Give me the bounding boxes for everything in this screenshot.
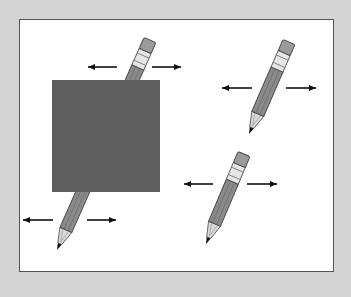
bottom-right-pencil — [200, 151, 250, 246]
top-right-arrows-left-arrow-icon — [222, 85, 252, 91]
pencil-body — [209, 179, 239, 226]
top-right-arrows-right-arrow-icon — [286, 85, 316, 91]
occluded-top-arrows-right-arrow-icon — [152, 64, 181, 70]
pencil-illustration — [0, 0, 351, 297]
figure-frame — [0, 0, 351, 297]
occluding-square-cover — [52, 80, 160, 192]
occluded-bottom-arrows-left-arrow-icon — [23, 217, 53, 223]
pencil-body — [252, 67, 283, 116]
bottom-right-arrows-right-arrow-icon — [247, 181, 277, 187]
bottom-right-arrows-left-arrow-icon — [184, 181, 213, 187]
occluded-bottom-arrows-right-arrow-icon — [87, 217, 116, 223]
occluded-top-arrows-left-arrow-icon — [88, 64, 117, 70]
